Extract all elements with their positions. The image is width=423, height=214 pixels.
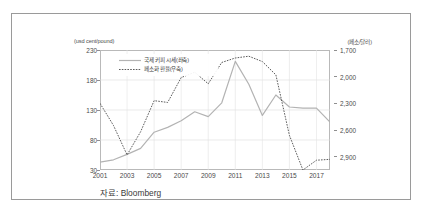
x-axis-tick-label: 2007 <box>174 172 189 179</box>
x-axis: 200120032005200720092011201320152017 <box>100 172 330 184</box>
series-line-1 <box>100 61 330 162</box>
left-axis-tick-label: 180 <box>86 77 97 84</box>
plot-area: 국제 커피 시세(좌축)페소화 환율(우축) <box>100 50 330 170</box>
legend-swatch-1-icon <box>119 58 141 63</box>
x-axis-tick-label: 2003 <box>120 172 135 179</box>
right-axis-tick-label: 1,700 <box>340 47 356 54</box>
source-note: 자료: Bloomberg <box>100 186 161 198</box>
left-axis-tick-label: 230 <box>86 47 97 54</box>
right-axis-tickmark <box>334 50 337 51</box>
right-axis-tickmark <box>334 156 337 157</box>
left-axis-tick-label: 130 <box>86 107 97 114</box>
left-axis-tick-label: 80 <box>90 137 97 144</box>
legend-item-1: 국제 커피 시세(좌축) <box>119 56 215 64</box>
x-axis-tick-label: 2015 <box>282 172 297 179</box>
x-axis-tick-label: 2001 <box>93 172 108 179</box>
right-axis-tick-label: 2,300 <box>340 100 356 107</box>
x-axis-tick-label: 2013 <box>255 172 270 179</box>
right-axis-tickmark <box>334 130 337 131</box>
left-y-axis: 2301801308030 <box>70 50 97 170</box>
x-axis-tick-label: 2011 <box>228 172 242 179</box>
left-axis-unit-label: (usd cent/pound) <box>74 38 114 44</box>
right-axis-tick-label: 2,000 <box>340 73 356 80</box>
right-axis-tickmark <box>334 103 337 104</box>
legend-label-2: 페소화 환율(우축) <box>144 65 183 73</box>
right-axis-tickmark <box>334 76 337 77</box>
chart-legend: 국제 커피 시세(좌축)페소화 환율(우축) <box>116 54 218 76</box>
chart-figure: (usd cent/pound) (페소/달러) 2301801308030 1… <box>11 13 411 200</box>
right-axis-unit-label: (페소/달러) <box>347 38 372 46</box>
x-axis-tick-label: 2005 <box>147 172 162 179</box>
right-axis-tick-label: 2,900 <box>340 153 356 160</box>
legend-item-2: 페소화 환율(우축) <box>119 65 215 73</box>
x-axis-tick-label: 2009 <box>201 172 216 179</box>
legend-label-1: 국제 커피 시세(좌축) <box>144 56 189 64</box>
legend-swatch-2-icon <box>119 67 141 72</box>
right-y-axis: 1,7002,0002,3002,6002,900 <box>334 50 374 170</box>
right-axis-tick-label: 2,600 <box>340 127 356 134</box>
x-axis-tick-label: 2017 <box>309 172 324 179</box>
